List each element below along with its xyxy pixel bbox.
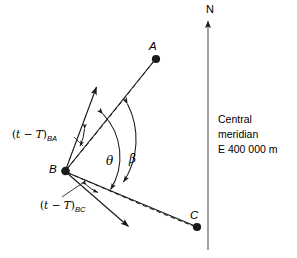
correction-bc-minus: − (48, 199, 63, 211)
station-dot-A (152, 55, 160, 63)
north-label: N (206, 3, 214, 16)
correction-ba-subscript: BA (47, 134, 57, 143)
station-dot-C (193, 223, 201, 231)
meridian-caption: Central meridian E 400 000 m (218, 112, 278, 157)
station-label-C: C (190, 209, 198, 223)
station-label-A: A (149, 40, 157, 54)
correction-ba-T: T (36, 128, 43, 140)
theta-arc (103, 114, 120, 190)
correction-label-bc: (t − T)BC (40, 199, 86, 215)
correction-bc-T: T (64, 199, 71, 211)
beta-arc (124, 104, 137, 182)
station-label-B: B (49, 163, 57, 177)
correction-bc-subscript: BC (75, 205, 86, 214)
tT-BC-leader (62, 180, 87, 197)
angle-label-theta: θ (106, 154, 113, 168)
correction-ba-minus: − (20, 128, 35, 140)
meridian-caption-line1: Central (218, 112, 278, 127)
figure-canvas: N A B C θ β (t − T)BA (t − T)BC Central … (0, 0, 297, 258)
ray-up-left (66, 87, 97, 169)
angle-label-beta: β (129, 152, 136, 166)
correction-label-ba: (t − T)BA (12, 128, 57, 144)
meridian-caption-line3: E 400 000 m (218, 142, 278, 157)
station-dot-B (61, 167, 70, 176)
meridian-caption-line2: meridian (218, 127, 278, 142)
